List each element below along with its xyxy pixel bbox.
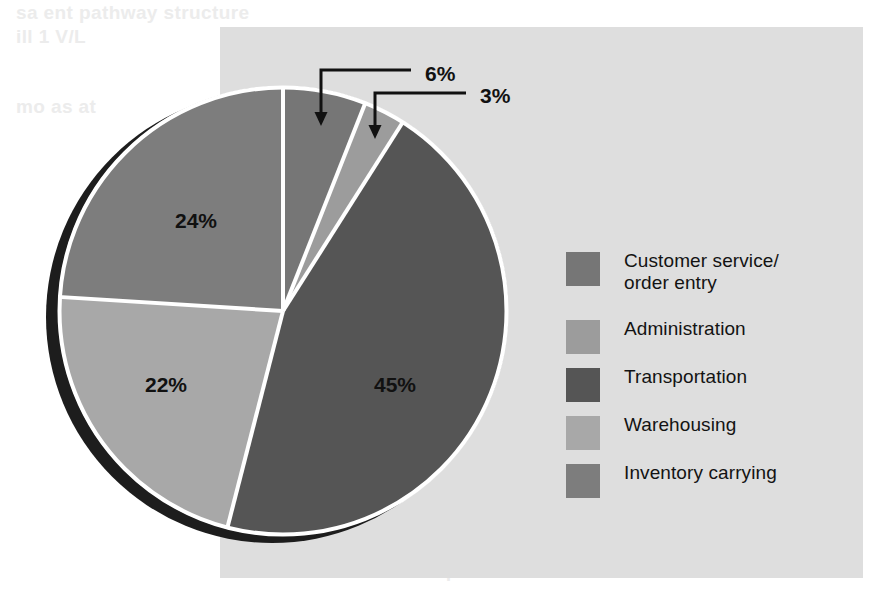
slice-value-label: 45%: [374, 373, 416, 396]
legend-item[interactable]: Customer service/ order entry: [566, 250, 866, 306]
legend-swatch-icon: [566, 416, 600, 450]
legend-item-label: Administration: [624, 318, 746, 340]
legend-item-label: Inventory carrying: [624, 462, 777, 484]
legend-item[interactable]: Inventory carrying: [566, 462, 866, 498]
legend-item-label: Customer service/ order entry: [624, 250, 779, 295]
legend-swatch-icon: [566, 368, 600, 402]
legend: Customer service/ order entryAdministrat…: [566, 250, 866, 510]
legend-item-label: Transportation: [624, 366, 747, 388]
callout-value-label: 6%: [425, 62, 456, 85]
legend-item[interactable]: Transportation: [566, 366, 866, 402]
pie-chart-figure: sa ent pathway structure ill 1 V/L mo as…: [0, 0, 896, 596]
legend-item[interactable]: Warehousing: [566, 414, 866, 450]
slice-value-label: 22%: [145, 373, 187, 396]
legend-item[interactable]: Administration: [566, 318, 866, 354]
slice-value-label: 24%: [175, 209, 217, 232]
legend-swatch-icon: [566, 320, 600, 354]
legend-swatch-icon: [566, 464, 600, 498]
callout-value-label: 3%: [480, 84, 511, 107]
legend-item-label: Warehousing: [624, 414, 736, 436]
legend-swatch-icon: [566, 252, 600, 286]
